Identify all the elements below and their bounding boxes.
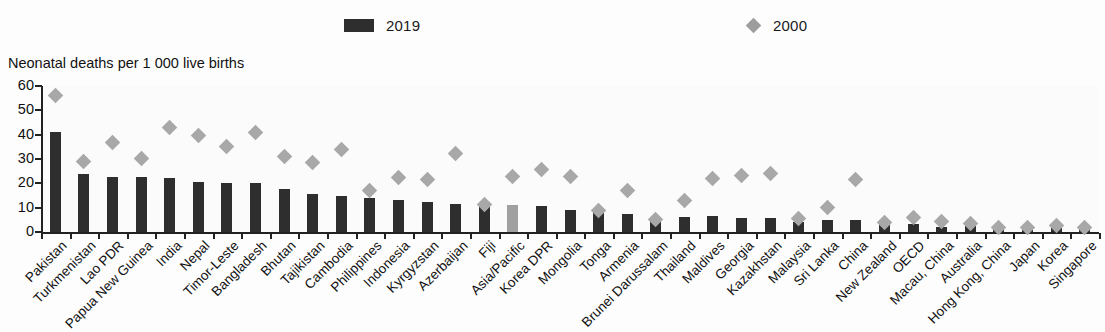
y-axis-tick-label: 40 <box>4 127 34 142</box>
bar-bangladesh[interactable] <box>250 183 261 232</box>
bar-korea-dpr[interactable] <box>536 206 547 232</box>
bar-nepal[interactable] <box>193 182 204 232</box>
y-axis-tick <box>35 158 42 160</box>
bar-asia-pacific[interactable] <box>507 205 518 232</box>
bar-cambodia[interactable] <box>336 196 347 232</box>
bar-pakistan[interactable] <box>50 132 61 232</box>
y-axis-tick-label: 60 <box>4 78 34 93</box>
bar-sri-lanka[interactable] <box>822 220 833 232</box>
y-axis-tick-label: 20 <box>4 175 34 190</box>
y-axis-tick <box>35 109 42 111</box>
bar-india[interactable] <box>164 178 175 232</box>
bar-kyrgyzstan[interactable] <box>422 202 433 232</box>
legend-item-2019[interactable]: 2019 <box>344 14 420 36</box>
legend-diamond-swatch-icon <box>746 17 762 33</box>
y-axis-tick-label: 30 <box>4 151 34 166</box>
bar-papua-new-guinea[interactable] <box>136 177 147 232</box>
bar-china[interactable] <box>850 220 861 232</box>
bar-lao-pdr[interactable] <box>107 177 118 232</box>
bar-timor-leste[interactable] <box>221 183 232 232</box>
chart-figure: 2019 2000 Neonatal deaths per 1 000 live… <box>0 0 1105 332</box>
legend-label-2000: 2000 <box>773 17 807 34</box>
y-axis-tick <box>35 207 42 209</box>
bar-georgia[interactable] <box>736 218 747 232</box>
bar-mongolia[interactable] <box>565 210 576 232</box>
bar-tajikistan[interactable] <box>307 194 318 232</box>
chart-legend: 2019 2000 <box>0 10 1105 40</box>
x-axis-label-text: Fiji <box>476 238 499 261</box>
y-axis-tick-label: 50 <box>4 102 34 117</box>
bar-turkmenistan[interactable] <box>78 174 89 232</box>
bar-thailand[interactable] <box>679 217 690 232</box>
y-axis-line <box>41 86 43 234</box>
bar-azerbaijan[interactable] <box>450 204 461 232</box>
bar-maldives[interactable] <box>707 216 718 232</box>
bar-kazakhstan[interactable] <box>765 218 776 232</box>
y-axis-tick-label: 10 <box>4 200 34 215</box>
legend-label-2019: 2019 <box>386 17 420 34</box>
bar-philippines[interactable] <box>364 198 375 232</box>
legend-item-2000[interactable]: 2000 <box>740 14 807 36</box>
bar-armenia[interactable] <box>622 214 633 232</box>
y-axis-tick <box>35 85 42 87</box>
y-axis-title: Neonatal deaths per 1 000 live births <box>8 55 244 71</box>
y-axis-tick <box>35 134 42 136</box>
bar-bhutan[interactable] <box>279 189 290 232</box>
y-axis-tick <box>35 182 42 184</box>
bar-indonesia[interactable] <box>393 200 404 232</box>
legend-bar-swatch-icon <box>344 19 374 32</box>
x-axis-labels: PakistanTurkmenistanLao PDRPapua New Gui… <box>0 236 1105 332</box>
